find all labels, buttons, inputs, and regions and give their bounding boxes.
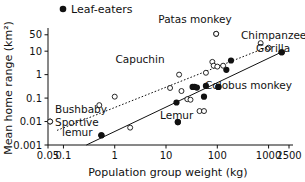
data-point-open (179, 89, 184, 94)
y-tick-label: 0.1 (26, 93, 42, 104)
data-point-open (221, 63, 226, 68)
data-point-sportive-lemur (98, 132, 104, 138)
data-point-open (177, 72, 182, 77)
annotation-capuchin: Capuchin (115, 53, 164, 65)
annotation-chimpanzee: Chimpanzee (241, 29, 305, 41)
x-tick-label: 2500 (276, 150, 301, 161)
data-point-open (188, 97, 193, 102)
data-point-open (201, 109, 206, 114)
data-point-open (128, 125, 133, 130)
data-point-gorilla (279, 49, 285, 55)
x-tick-label: 10 (160, 150, 173, 161)
data-point-filled (194, 85, 200, 91)
data-point-filled (173, 99, 179, 105)
figure-scatter-home-range: 0.050.1110100100025000.0010.010.111050 P… (0, 0, 305, 182)
y-tick-label: 50 (29, 29, 42, 40)
data-point-colobus-monkey (215, 84, 221, 90)
legend-marker-filled-circle (60, 6, 67, 13)
x-tick-label: 1 (112, 150, 118, 161)
data-point-patas-monkey (214, 31, 219, 36)
data-point-filled (228, 57, 234, 63)
y-tick-label: 0.001 (13, 140, 42, 151)
data-point-open (168, 85, 173, 90)
data-point-lemur (175, 119, 181, 125)
data-point-open (203, 70, 208, 75)
data-point-open (112, 94, 117, 99)
y-tick-label: 0.01 (20, 116, 42, 127)
x-axis-title: Population group weight (kg) (88, 166, 247, 179)
y-tick-label: 10 (29, 46, 42, 57)
y-tick-label: 1 (36, 69, 42, 80)
data-point-open (215, 64, 220, 69)
x-tick-label: 0.1 (55, 150, 71, 161)
annotation-patas-monkey: Patas monkey (158, 13, 231, 25)
annotation-gorilla: Gorilla (256, 42, 290, 54)
data-point-bushbaby (48, 119, 53, 124)
annotation-sportive-lemur-line2: lemur (62, 126, 93, 138)
legend-label: Leaf-eaters (71, 3, 133, 16)
x-tick-label: 100 (208, 150, 227, 161)
annotation-bushbaby: Bushbaby (55, 103, 107, 115)
chart-canvas: 0.050.1110100100025000.0010.010.111050 P… (0, 0, 305, 182)
data-point-filled (201, 94, 207, 100)
legend: Leaf-eaters (60, 3, 133, 16)
y-axis-title: Mean home range (km²) (2, 21, 15, 155)
